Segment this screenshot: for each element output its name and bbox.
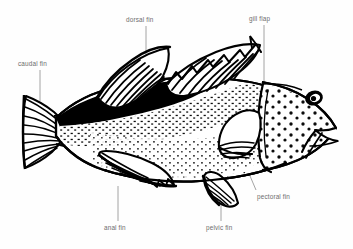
label-gill-flap: gill flap <box>249 15 270 23</box>
label-dorsal-fin: dorsal fin <box>126 16 153 24</box>
label-anal-fin: anal fin <box>104 224 126 232</box>
fish-illustration <box>0 0 353 249</box>
label-pelvic-fin: pelvic fin <box>206 224 232 232</box>
label-pectoral-fin: pectoral fin <box>257 193 290 201</box>
label-caudal-fin: caudal fin <box>18 60 47 68</box>
fish-anatomy-diagram: caudal fin dorsal fin gill flap pectoral… <box>0 0 353 249</box>
